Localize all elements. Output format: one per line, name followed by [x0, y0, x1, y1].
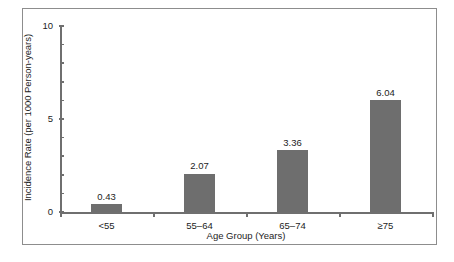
- bar-value-label-≥75: 6.04: [356, 87, 416, 98]
- y-tick-mark: [60, 44, 64, 46]
- y-tick-mark: [59, 25, 64, 27]
- y-tick-mark: [60, 174, 64, 176]
- y-tick-mark: [60, 100, 64, 102]
- y-tick-label: 5: [48, 113, 53, 124]
- bar-65–74: [277, 150, 308, 212]
- y-tick-label: 10: [42, 20, 53, 31]
- y-axis-label: Incidence Rate (per 1000 Person-years): [22, 18, 33, 218]
- x-axis-label: Age Group (Years): [60, 230, 432, 241]
- bar-value-label-55–64: 2.07: [170, 160, 230, 171]
- plot-area: 0510 0.432.073.366.04 <5555–6465–74≥75: [60, 26, 432, 212]
- y-tick-mark: [60, 193, 64, 195]
- bar-value-label-65–74: 3.36: [263, 137, 323, 148]
- x-axis-tick: [60, 212, 62, 217]
- y-tick-label: 0: [48, 206, 53, 217]
- y-tick-mark: [60, 155, 64, 157]
- x-axis-tick: [432, 212, 434, 217]
- x-axis-tick: [339, 212, 341, 217]
- y-tick-mark: [60, 137, 64, 139]
- x-category-label-65–74: 65–74: [253, 220, 333, 231]
- x-category-label-<55: <55: [67, 220, 147, 231]
- x-axis-tick: [246, 212, 248, 217]
- x-axis-tick: [153, 212, 155, 217]
- x-category-label-55–64: 55–64: [160, 220, 240, 231]
- y-tick-mark: [59, 118, 64, 120]
- bar-<55: [91, 204, 122, 212]
- bar-≥75: [370, 100, 401, 212]
- bar-chart-figure: Incidence Rate (per 1000 Person-years) A…: [0, 0, 454, 262]
- bar-value-label-<55: 0.43: [77, 191, 137, 202]
- y-tick-mark: [60, 62, 64, 64]
- y-tick-mark: [60, 81, 64, 83]
- bar-55–64: [184, 174, 215, 213]
- x-category-label-≥75: ≥75: [346, 220, 426, 231]
